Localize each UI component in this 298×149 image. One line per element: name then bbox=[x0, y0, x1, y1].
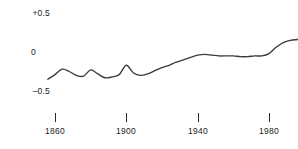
data-series-line bbox=[48, 39, 298, 80]
chart-figure: +0.5 0 –0.5 1860 1900 1940 1980 bbox=[0, 0, 298, 149]
plot-area bbox=[0, 0, 298, 149]
